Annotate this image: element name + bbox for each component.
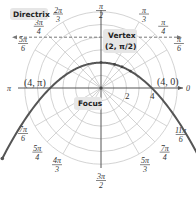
focus-callout: Focus [74, 97, 103, 110]
vertex-coords: (2, π/2) [105, 42, 136, 51]
angle-label-den: 6 [179, 135, 183, 144]
angle-label-num: π [161, 18, 166, 27]
grid-spoke [63, 22, 101, 88]
angle-label: 0 [186, 84, 190, 93]
point-label-4-0: (4, 0) [157, 76, 179, 88]
curve-point [100, 61, 103, 64]
angle-label-den: 2 [99, 11, 103, 20]
focus-point [99, 86, 102, 89]
angle-label-den: 3 [141, 15, 146, 24]
angle-label-num: 5π [141, 156, 150, 165]
vertex-callout: Vertex (2, π/2) [103, 29, 137, 53]
radial-label-2: 2 [125, 91, 130, 101]
curve-point [129, 70, 132, 73]
angle-label-den: 3 [54, 165, 59, 174]
angle-label-den: 4 [163, 153, 167, 162]
directrix-callout: Directrix [10, 8, 50, 20]
angle-label-den: 4 [35, 153, 39, 162]
radial-label-4: 4 [150, 91, 155, 101]
angle-label: π [7, 84, 12, 93]
angle-label-den: 3 [55, 15, 60, 24]
angle-label-num: 5π [33, 144, 42, 153]
angle-label-num: 4π [53, 156, 62, 165]
angle-label-den: 2 [99, 181, 103, 190]
angle-label-num: π [177, 35, 182, 44]
curve-point [121, 66, 124, 69]
angle-label-num: 2π [54, 6, 63, 15]
angle-label-den: 6 [21, 44, 25, 53]
vertex-label: Vertex [108, 31, 136, 40]
focus-label: Focus [78, 99, 103, 108]
angle-labels: 0π6π4π3π22π33π45π6π7π65π44π33π25π37π411π… [7, 2, 190, 190]
curve-point [113, 63, 116, 66]
grid-spoke [101, 88, 139, 154]
arrow-icon [1, 157, 5, 161]
polar-graph: 0π6π4π3π22π33π45π6π7π65π44π33π25π37π411π… [0, 0, 196, 201]
angle-label-den: 6 [21, 134, 25, 143]
grid-spoke [47, 88, 101, 142]
arrow-icon [178, 86, 183, 90]
directrix-label: Directrix [13, 10, 50, 19]
angle-label-num: π [99, 2, 104, 11]
point-label-4-pi: (4, π) [24, 77, 46, 89]
grid-spoke [47, 34, 101, 88]
angle-label-den: 4 [161, 27, 165, 36]
angle-label-num: 5π [19, 35, 28, 44]
angle-label-num: 7π [161, 144, 170, 153]
angle-label-den: 4 [37, 27, 41, 36]
angle-label-den: 6 [177, 44, 181, 53]
angle-label-num: 3π [96, 172, 106, 181]
angle-label-num: π [142, 6, 147, 15]
angle-label-den: 3 [142, 165, 147, 174]
